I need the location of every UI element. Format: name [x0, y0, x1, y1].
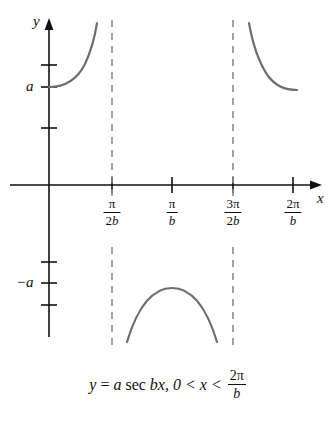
curve-left-branch	[49, 23, 97, 87]
caption-function-name: sec	[125, 377, 145, 393]
figure-caption: y = a sec bx, 0 < x < 2π b	[0, 368, 335, 401]
caption-lhs: y	[89, 377, 96, 393]
curve-right-branch	[249, 23, 297, 90]
x-axis-label: x	[317, 191, 324, 206]
caption-upper-bound: 2π b	[228, 368, 246, 401]
x-tick-label-2pi-over-b-denominator: b	[284, 213, 301, 228]
curve-middle-branch	[127, 288, 217, 342]
caption-argument: bx	[150, 377, 165, 393]
x-tick-label-3pi-over-2b-denominator: 2b	[224, 213, 241, 228]
x-tick-label-pi-over-2b-denominator: 2b	[104, 213, 121, 228]
x-tick-label-3pi-over-2b-numerator: 3π	[224, 197, 241, 213]
y-axis-arrowhead	[45, 18, 54, 30]
x-axis-arrowhead	[310, 181, 322, 190]
x-tick-label-pi-over-2b: π 2b	[104, 197, 121, 228]
x-tick-label-2pi-over-b-numerator: 2π	[284, 197, 301, 213]
y-axis-label: y	[33, 14, 40, 29]
caption-upper-bound-numerator: 2π	[228, 368, 246, 385]
x-tick-label-2pi-over-b: 2π b	[284, 197, 301, 228]
x-tick-label-pi-over-b-numerator: π	[167, 197, 178, 213]
caption-upper-bound-denominator: b	[228, 385, 246, 401]
x-tick-label-pi-over-2b-numerator: π	[104, 197, 121, 213]
caption-equals: =	[100, 377, 109, 393]
x-tick-label-3pi-over-2b: 3π 2b	[224, 197, 241, 228]
secant-graph-figure: y x a −a π 2b π b 3π 2b 2π b y = a sec b	[0, 0, 335, 429]
x-tick-label-pi-over-b-denominator: b	[167, 213, 178, 228]
caption-domain: , 0 < x <	[165, 377, 222, 393]
caption-amplitude: a	[113, 377, 121, 393]
y-tick-label-neg-a: −a	[16, 275, 34, 290]
x-tick-label-pi-over-b: π b	[167, 197, 178, 228]
y-tick-label-a: a	[26, 79, 34, 94]
plot-canvas	[0, 0, 335, 360]
